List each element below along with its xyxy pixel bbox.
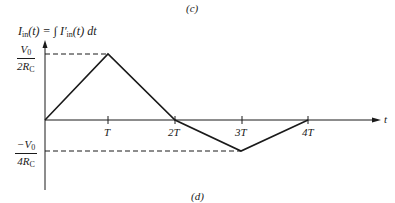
x-axis-label: t <box>384 114 387 125</box>
y-axis-arrow-icon <box>43 40 48 48</box>
x-axis-arrow-icon <box>372 118 381 123</box>
tick-label-2T: 2T <box>168 127 180 138</box>
bottom-caption: (d) <box>191 191 204 202</box>
tick-label-3T: 3T <box>235 127 247 138</box>
tick-label-T: T <box>104 127 110 138</box>
tick-label-4T: 4T <box>302 127 314 138</box>
waveform-plot <box>0 0 395 203</box>
